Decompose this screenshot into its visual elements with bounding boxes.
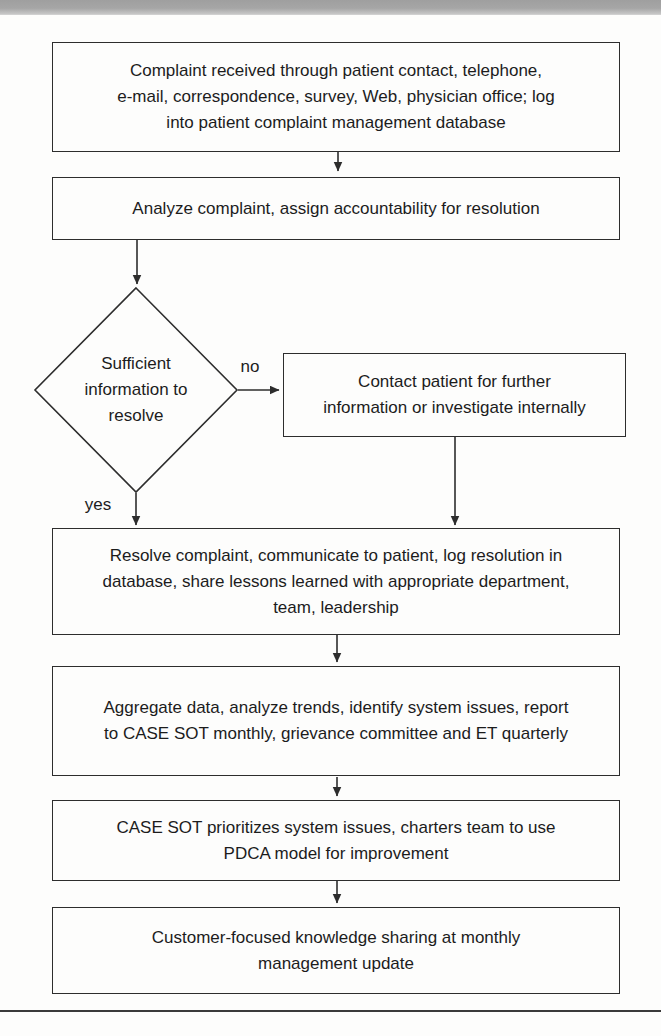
flow-node-share: Customer-focused knowledge sharing at mo… xyxy=(52,907,620,994)
page-bottom-rule xyxy=(0,1010,661,1012)
flow-node-decision: Sufficient information to resolve xyxy=(61,351,211,429)
flow-node-contact: Contact patient for further information … xyxy=(283,353,626,437)
flow-node-contact-text: Contact patient for further information … xyxy=(323,369,586,421)
flow-node-prioritize-text: CASE SOT prioritizes system issues, char… xyxy=(117,815,556,867)
flow-node-analyze: Analyze complaint, assign accountability… xyxy=(52,177,620,240)
flow-node-resolve-text: Resolve complaint, communicate to patien… xyxy=(103,543,570,621)
flow-node-received: Complaint received through patient conta… xyxy=(52,42,620,152)
flow-node-aggregate: Aggregate data, analyze trends, identify… xyxy=(52,666,620,776)
flow-node-received-text: Complaint received through patient conta… xyxy=(117,58,555,136)
flowchart-page: Complaint received through patient conta… xyxy=(0,0,661,1036)
flow-node-analyze-text: Analyze complaint, assign accountability… xyxy=(132,196,539,222)
flow-node-share-text: Customer-focused knowledge sharing at mo… xyxy=(152,925,521,977)
branch-label-yes: yes xyxy=(78,492,118,518)
flow-node-aggregate-text: Aggregate data, analyze trends, identify… xyxy=(104,695,569,747)
flow-node-decision-text: Sufficient information to resolve xyxy=(85,351,188,429)
flow-node-resolve: Resolve complaint, communicate to patien… xyxy=(52,528,620,635)
flow-node-prioritize: CASE SOT prioritizes system issues, char… xyxy=(52,800,620,881)
branch-label-no: no xyxy=(234,354,266,380)
